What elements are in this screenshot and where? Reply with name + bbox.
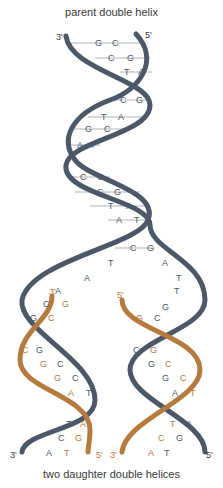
svg-text:A: A — [138, 67, 144, 77]
svg-text:C: C — [80, 172, 87, 182]
svg-text:A: A — [84, 273, 90, 283]
svg-text:G: G — [147, 243, 154, 253]
svg-text:C: C — [180, 373, 187, 383]
svg-text:G: G — [97, 172, 104, 182]
svg-text:A: A — [68, 388, 74, 398]
label-bottom-left-5prime: 5' — [96, 450, 103, 460]
svg-text:G: G — [30, 313, 37, 323]
label-fork-3prime: 3' — [49, 287, 56, 297]
svg-text:C: C — [154, 313, 161, 323]
svg-text:T: T — [66, 419, 72, 429]
svg-text:T: T — [86, 388, 92, 398]
svg-text:C: C — [112, 38, 119, 48]
svg-text:T: T — [174, 286, 180, 296]
svg-text:C: C — [108, 53, 115, 63]
svg-text:A: A — [55, 286, 61, 296]
svg-text:C: C — [43, 299, 50, 309]
svg-text:A: A — [148, 448, 154, 458]
svg-text:T: T — [108, 201, 114, 211]
svg-text:T: T — [176, 273, 182, 283]
svg-text:G: G — [54, 373, 61, 383]
svg-text:G: G — [62, 299, 69, 309]
svg-text:C: C — [22, 345, 29, 355]
svg-text:A: A — [186, 419, 192, 429]
svg-text:C: C — [165, 359, 172, 369]
svg-text:G: G — [40, 359, 47, 369]
label-fork-5prime: 5' — [117, 290, 124, 300]
label-bottom-right-5prime: 5' — [206, 450, 213, 460]
svg-text:C: C — [133, 345, 140, 355]
svg-text:A: A — [77, 140, 83, 150]
svg-text:C: C — [97, 187, 104, 197]
svg-text:G: G — [114, 187, 121, 197]
svg-text:C: C — [58, 433, 65, 443]
svg-text:G: G — [85, 124, 92, 134]
svg-text:T: T — [64, 448, 70, 458]
svg-text:T: T — [164, 448, 170, 458]
svg-text:C: C — [158, 433, 165, 443]
svg-text:A: A — [162, 258, 168, 268]
svg-text:G: G — [150, 345, 157, 355]
svg-text:C: C — [120, 95, 127, 105]
svg-text:G: G — [162, 373, 169, 383]
svg-text:G: G — [148, 359, 155, 369]
svg-text:T: T — [190, 388, 196, 398]
svg-text:A: A — [80, 419, 86, 429]
svg-text:A: A — [126, 201, 132, 211]
svg-text:C: C — [104, 124, 111, 134]
svg-text:G: G — [162, 302, 169, 312]
svg-text:C: C — [48, 313, 55, 323]
svg-text:T: T — [101, 112, 107, 122]
label-bottom-left-3prime: 3' — [10, 450, 17, 460]
dna-replication-diagram: GC CG TA CG TA GC AT CG CG TA AT CG TA A… — [0, 0, 223, 488]
svg-text:G: G — [95, 38, 102, 48]
label-bottom-right-3prime: 3' — [110, 450, 117, 460]
svg-text:C: C — [72, 373, 79, 383]
label-top-3prime: 3' — [56, 32, 63, 42]
label-top-5prime: 5' — [145, 30, 152, 40]
svg-text:T: T — [90, 140, 96, 150]
svg-text:G: G — [36, 345, 43, 355]
svg-text:G: G — [136, 313, 143, 323]
svg-text:A: A — [118, 112, 124, 122]
svg-text:G: G — [75, 433, 82, 443]
svg-text:T: T — [170, 419, 176, 429]
svg-text:C: C — [57, 359, 64, 369]
svg-text:G: G — [127, 53, 134, 63]
svg-text:A: A — [172, 388, 178, 398]
svg-text:A: A — [116, 215, 122, 225]
svg-text:T: T — [134, 215, 140, 225]
svg-text:C: C — [130, 243, 137, 253]
svg-text:T: T — [124, 67, 130, 77]
daughter-helices-title: two daughter double helices — [0, 468, 223, 480]
svg-text:T: T — [108, 258, 114, 268]
svg-text:A: A — [46, 448, 52, 458]
svg-text:G: G — [136, 95, 143, 105]
svg-text:G: G — [176, 433, 183, 443]
